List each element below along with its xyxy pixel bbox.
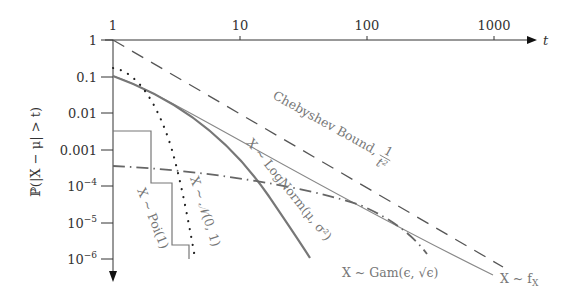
x-axis: t 1 10 100 1000 bbox=[105, 18, 549, 48]
annotation-normal: X ~ 𝒩(0, 1) bbox=[187, 174, 224, 248]
series-group bbox=[113, 40, 503, 275]
annotation-gamma: X ~ Gam(ϵ, √ϵ) bbox=[342, 265, 438, 280]
x-tick-label: 1 bbox=[109, 18, 117, 33]
y-tick-label: 10−4 bbox=[67, 177, 97, 194]
svg-text:t²: t² bbox=[374, 155, 390, 173]
y-tick-label: 10−5 bbox=[67, 214, 97, 231]
y-tick-label: 1 bbox=[89, 33, 97, 48]
x-axis-label: t bbox=[543, 33, 549, 48]
annotations: Chebyshev Bound, 1 t² X ~ LogNorm(μ, σ²)… bbox=[134, 88, 539, 288]
annotation-chebyshev: Chebyshev Bound, bbox=[271, 88, 381, 158]
y-tick-label: 0.001 bbox=[60, 143, 97, 158]
y-axis-arrow-icon bbox=[109, 271, 117, 282]
x-tick-label: 10 bbox=[232, 18, 249, 33]
x-tick-label: 100 bbox=[355, 18, 380, 33]
y-axis: 1 0.1 0.01 0.001 10−4 10−5 10−6 ℙ(|X − μ… bbox=[28, 33, 117, 282]
y-tick-label: 0.1 bbox=[76, 70, 97, 85]
y-tick-label: 10−6 bbox=[67, 250, 97, 267]
y-axis-label: ℙ(|X − μ| > t) bbox=[28, 107, 43, 197]
x-axis-arrow-icon bbox=[527, 36, 537, 44]
annotation-poisson: X ~ Poi(1) bbox=[134, 186, 172, 251]
annotation-fx: X ~ fX bbox=[500, 271, 539, 288]
tail-probability-chart: t 1 10 100 1000 1 0.1 0.01 0.001 10−4 10… bbox=[0, 0, 575, 303]
x-tick-label: 1000 bbox=[477, 18, 510, 33]
y-tick-label: 0.01 bbox=[68, 106, 97, 121]
